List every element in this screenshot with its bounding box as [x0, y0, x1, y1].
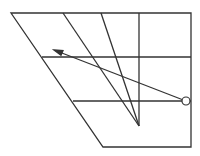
arrow-shaft	[58, 52, 182, 100]
converging-line-left	[63, 13, 139, 126]
converging-line-right	[101, 13, 139, 126]
outline-shape	[11, 13, 191, 147]
origin-circle	[182, 97, 190, 105]
arrowhead-icon	[54, 50, 63, 55]
line-diagram	[0, 0, 200, 156]
